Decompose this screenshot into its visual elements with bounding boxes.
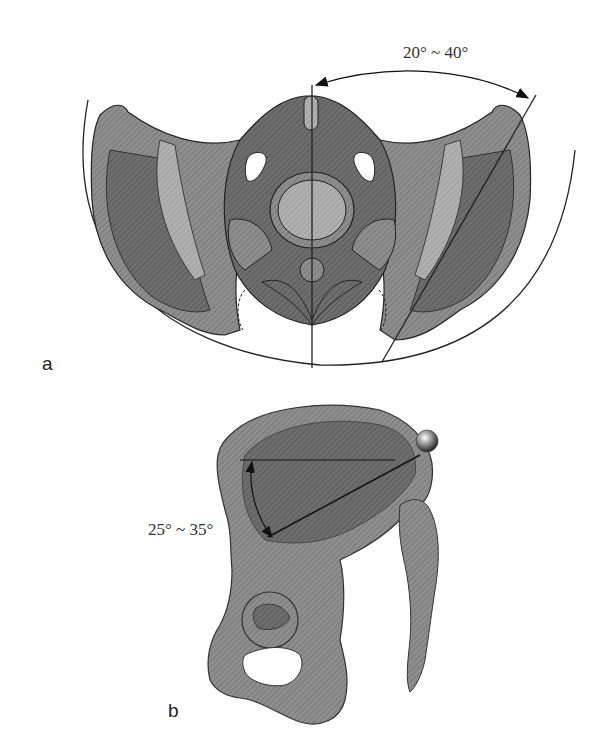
pelvis-angle-figure: 20° ~ 40° a 25° ~ 35° b: [0, 0, 615, 743]
panel-label-a: a: [42, 353, 53, 375]
sphere-marker: [416, 430, 438, 452]
panel-a-drawing: [83, 71, 575, 368]
panel-label-b: b: [168, 700, 179, 722]
anatomical-illustration: [0, 0, 615, 743]
panel-b-drawing: [208, 405, 438, 724]
angle-label-b: 25° ~ 35°: [148, 520, 213, 540]
angle-label-a: 20° ~ 40°: [403, 43, 468, 63]
angle-arc-a: [316, 71, 528, 98]
coccyx: [399, 500, 438, 692]
